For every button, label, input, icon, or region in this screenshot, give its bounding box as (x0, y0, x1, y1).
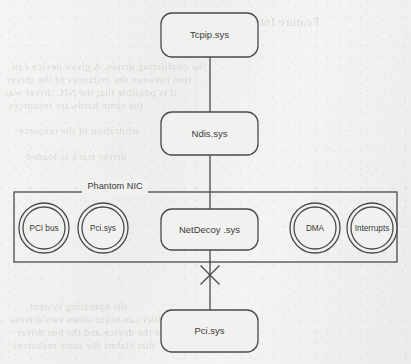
driver-node-ndis: Ndis.sys (161, 112, 258, 155)
resource-circle-pci-sys: Pci.sys (78, 203, 128, 253)
resource-circle-label: Interrupts (355, 224, 390, 233)
driver-node-netdecoy: NetDecoy .sys (161, 209, 258, 250)
resource-circle-label: DMA (306, 224, 325, 233)
phantom-nic-diagram: Phantom NIC PCI busPci.sysDMAInterrupts … (0, 0, 411, 364)
driver-node-tcpip: Tcpip.sys (161, 13, 258, 57)
driver-node-pci-bottom: Pci.sys (161, 310, 258, 352)
resource-circle-dma: DMA (290, 203, 340, 253)
phantom-nic-label: Phantom NIC (87, 181, 143, 191)
driver-node-label: NetDecoy .sys (179, 224, 240, 235)
resource-circle-label: Pci.sys (90, 224, 116, 233)
driver-node-label: Ndis.sys (192, 128, 228, 139)
resource-circle-interrupts: Interrupts (347, 203, 397, 253)
driver-node-label: Pci.sys (194, 325, 224, 336)
figure-canvas: Feature Interactionsthe conflicting driv… (0, 0, 411, 364)
resource-circle-pci-bus: PCI bus (19, 203, 69, 253)
driver-node-label: Tcpip.sys (190, 29, 229, 40)
resource-circle-label: PCI bus (29, 224, 58, 233)
